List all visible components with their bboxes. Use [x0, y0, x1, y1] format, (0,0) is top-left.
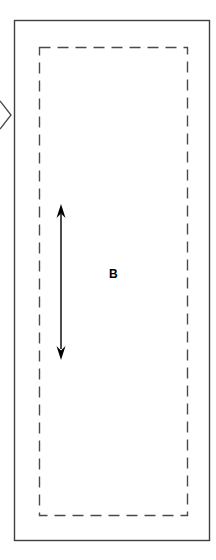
- region-label: B: [109, 267, 118, 281]
- left-edge-chevron-icon: [0, 101, 11, 129]
- diagram: B: [0, 0, 216, 560]
- figure-canvas: B: [0, 0, 216, 560]
- vertical-double-arrow-icon: [57, 204, 66, 360]
